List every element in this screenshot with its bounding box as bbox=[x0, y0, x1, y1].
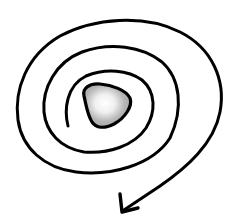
spiral-arrow-icon bbox=[0, 0, 238, 221]
spiral-illustration bbox=[0, 0, 238, 221]
spiral-core bbox=[84, 84, 131, 127]
